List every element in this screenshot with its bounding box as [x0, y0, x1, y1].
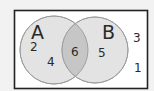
element-outside-1: 3 [133, 31, 141, 45]
venn-diagram: A B 2 4 6 5 3 1 [0, 0, 154, 91]
element-a-only-2: 4 [47, 55, 55, 69]
element-intersection: 6 [71, 45, 79, 59]
element-b-only: 5 [98, 46, 106, 60]
set-b-label: B [102, 21, 115, 43]
element-outside-2: 1 [134, 61, 142, 75]
element-a-only-1: 2 [30, 40, 38, 54]
